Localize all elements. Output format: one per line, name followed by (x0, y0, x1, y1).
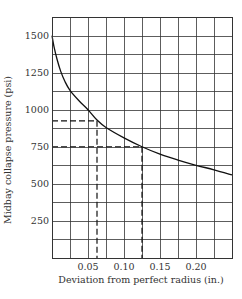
y-axis-title: Midbay collapse pressure (psi) (2, 76, 13, 224)
x-axis-tick-labels: 0.050.100.150.20 (77, 261, 206, 272)
x-axis-title: Deviation from perfect radius (in.) (58, 274, 223, 285)
x-tick-label: 0.10 (113, 261, 134, 272)
y-tick-label: 1500 (25, 30, 49, 41)
y-tick-label: 1000 (25, 104, 49, 115)
y-axis-tick-labels: 250500750100012501500 (25, 30, 49, 226)
x-tick-label: 0.20 (185, 261, 206, 272)
x-tick-label: 0.15 (149, 261, 170, 272)
y-tick-label: 750 (31, 141, 49, 152)
chart: 250500750100012501500 0.050.100.150.20 D… (0, 0, 242, 299)
dashed-guide-lines (52, 121, 142, 258)
collapse-pressure-curve (52, 36, 232, 175)
y-tick-label: 1250 (25, 67, 49, 78)
y-tick-label: 250 (31, 215, 49, 226)
y-tick-label: 500 (31, 178, 49, 189)
x-tick-label: 0.05 (77, 261, 98, 272)
